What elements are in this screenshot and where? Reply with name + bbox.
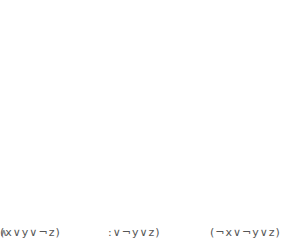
clause-3: (x∨y∨¬z) [0, 226, 61, 239]
clause-1: :∨¬y∨z) [108, 226, 161, 239]
formula: :∨¬y∨z) ∧ (¬x∨¬y∨z) ∧ (x∨y∨¬z) [0, 226, 301, 242]
sat-reduction-graph [0, 0, 301, 247]
clause-2: (¬x∨¬y∨z) [210, 226, 281, 239]
